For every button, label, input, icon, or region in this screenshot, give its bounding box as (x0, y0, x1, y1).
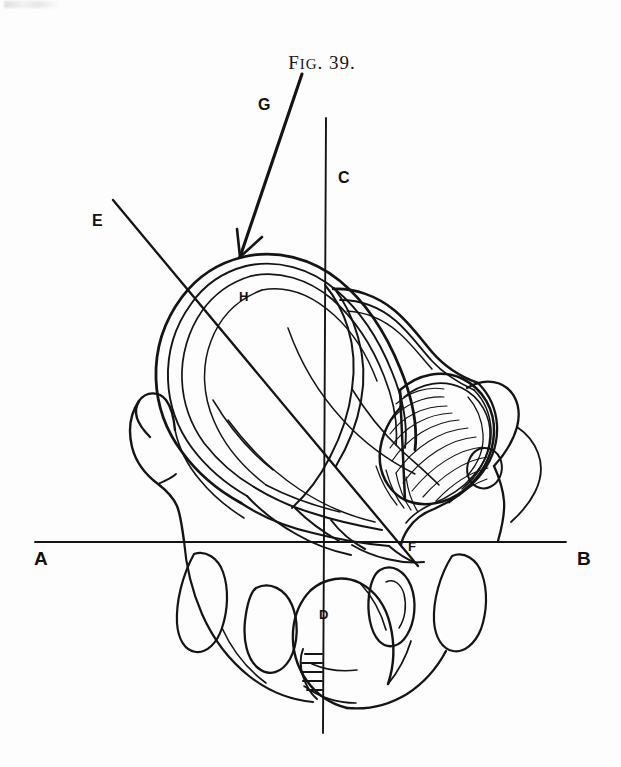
pelvis-diagram (0, 0, 621, 767)
sacro-iliac-detail (247, 496, 424, 563)
figure-container: FIG. 39. (0, 0, 621, 767)
label-a: A (34, 549, 48, 568)
label-f: F (408, 540, 416, 553)
label-c: C (338, 170, 350, 186)
pelvic-brim-inner (292, 285, 439, 508)
label-b: B (577, 549, 591, 568)
vertical-axis-line (323, 118, 326, 733)
label-e: E (92, 213, 103, 229)
label-h: H (239, 290, 248, 303)
lower-pelvis (177, 541, 486, 708)
coccyx-hatching (301, 649, 322, 699)
label-g: G (258, 97, 270, 113)
label-d: D (319, 608, 328, 621)
